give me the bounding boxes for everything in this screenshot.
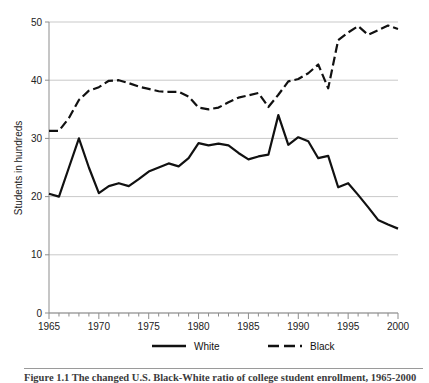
- plot-background: [49, 22, 398, 313]
- y-tick-label: 50: [31, 17, 43, 28]
- y-tick-label: 20: [31, 191, 43, 202]
- y-axis-title: Students in hundreds: [13, 121, 24, 216]
- x-tick-label: 2000: [387, 321, 410, 332]
- chart-legend: WhiteBlack: [152, 341, 335, 352]
- y-tick-label: 40: [31, 75, 43, 86]
- y-tick-label: 0: [36, 308, 42, 319]
- figure-caption: Figure 1.1 The changed U.S. Black-White …: [24, 372, 424, 383]
- y-tick-label: 30: [31, 133, 43, 144]
- x-axis-tick-labels: 19651970197519801985199019952000: [38, 321, 410, 332]
- legend-label-black: Black: [310, 341, 335, 352]
- x-tick-label: 1975: [138, 321, 161, 332]
- x-axis-ticks: [49, 313, 398, 319]
- x-tick-label: 1990: [287, 321, 310, 332]
- x-tick-label: 1980: [187, 321, 210, 332]
- y-tick-label: 10: [31, 249, 43, 260]
- legend-label-white: White: [194, 341, 220, 352]
- y-axis-tick-labels: 01020304050: [31, 17, 43, 319]
- x-tick-label: 1985: [237, 321, 260, 332]
- caption-divider: [24, 368, 423, 369]
- y-axis-ticks: [45, 22, 49, 313]
- x-tick-label: 1995: [337, 321, 360, 332]
- x-tick-label: 1970: [88, 321, 111, 332]
- x-tick-label: 1965: [38, 321, 61, 332]
